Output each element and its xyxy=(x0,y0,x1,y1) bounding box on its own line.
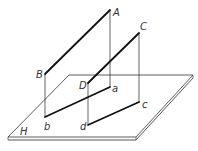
label-b: b xyxy=(44,121,50,132)
thick-lines xyxy=(45,10,139,125)
projection-ab xyxy=(45,87,110,117)
line-ab xyxy=(45,10,110,74)
label-B: B xyxy=(36,69,43,80)
projection-cd xyxy=(88,102,139,125)
line-cd xyxy=(88,33,139,83)
label-D: D xyxy=(79,80,87,91)
projection-diagram: A B C D a b c d H xyxy=(0,0,198,151)
label-C: C xyxy=(140,21,147,32)
label-H: H xyxy=(20,126,28,137)
label-c: c xyxy=(142,99,148,110)
plane-h xyxy=(8,75,193,140)
label-a: a xyxy=(112,83,118,94)
label-A: A xyxy=(112,7,120,18)
label-d: d xyxy=(80,121,87,132)
